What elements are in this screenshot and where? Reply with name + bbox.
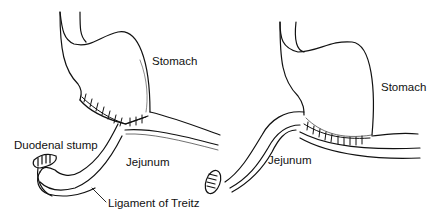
left-jejunum [38,112,220,196]
left-ligament-label: Ligament of Treitz [108,198,199,210]
left-jejunum-label: Jejunum [126,157,169,169]
left-duodenal-stump-label: Duodenal stump [14,140,98,152]
right-jejunal-stump [202,168,223,195]
right-jejunum [225,112,420,192]
left-stomach-label: Stomach [152,56,197,68]
left-stomach [60,12,150,124]
diagram-canvas [0,0,433,224]
duodenal-stump [33,155,56,196]
right-jejunum-label: Jejunum [268,155,311,167]
right-suture-line [304,122,370,145]
right-stomach-label: Stomach [381,82,426,94]
right-stomach [280,22,373,136]
ligament-pointer [92,188,106,202]
